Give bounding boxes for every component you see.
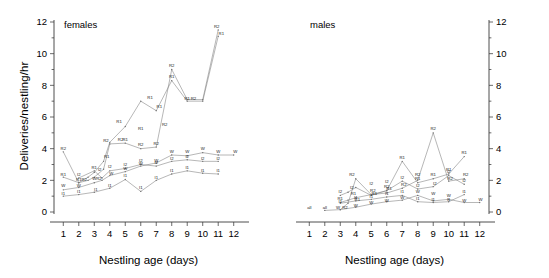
data-point (218, 161, 219, 162)
data-point (233, 154, 234, 155)
data-point (94, 172, 95, 173)
panel-title-males: males (310, 19, 336, 30)
point-label: R2 (61, 146, 67, 151)
point-label: I1 (139, 185, 143, 190)
x-tick-label: 3 (92, 228, 97, 239)
data-point (218, 173, 219, 174)
series-line-W (63, 153, 233, 190)
data-point (171, 80, 172, 81)
point-label: R2 (342, 205, 348, 210)
panel-females: 024681012123456789101112femalesNestling … (36, 16, 249, 266)
point-label: I2 (462, 178, 466, 183)
y-tick-label: 8 (496, 80, 501, 91)
point-label: I1 (462, 189, 466, 194)
point-label: W (109, 171, 114, 176)
data-point (433, 186, 434, 187)
point-label: I1 (77, 189, 81, 194)
point-label: I2 (338, 189, 342, 194)
point-label: I1 (154, 175, 158, 180)
point-label: R1 (219, 31, 225, 36)
data-point (218, 36, 219, 37)
point-label: W (462, 198, 467, 203)
data-point (94, 170, 95, 171)
y-tick-label: 2 (496, 175, 501, 186)
point-label: I2 (154, 160, 158, 165)
data-point (355, 187, 356, 188)
x-tick-label: 1 (61, 228, 66, 239)
x-tick-label: 10 (197, 228, 208, 239)
panel-title-females: females (64, 19, 98, 30)
data-point (63, 195, 64, 196)
point-label: I2 (170, 156, 174, 161)
point-label: R1 (116, 119, 122, 124)
point-label: I2 (201, 156, 205, 161)
point-label: I1 (447, 197, 451, 202)
point-label: W (170, 149, 175, 154)
point-label: R2 (138, 142, 144, 147)
point-label: R2 (103, 138, 109, 143)
x-tick-label: 8 (169, 228, 174, 239)
point-label: I1 (416, 196, 420, 201)
point-label: I1 (108, 183, 112, 188)
data-point (109, 188, 110, 189)
data-point (140, 191, 141, 192)
y-tick-label: 10 (36, 48, 47, 59)
point-label: W (431, 191, 436, 196)
point-label: I2 (369, 181, 373, 186)
point-label: I1 (369, 194, 373, 199)
point-label: I1 (400, 189, 404, 194)
point-label: all (323, 205, 327, 210)
point-label: I2 (98, 167, 102, 172)
data-point (402, 161, 403, 162)
x-tick-label: 11 (459, 228, 469, 239)
point-label: I2 (400, 175, 404, 180)
point-label: R1 (430, 172, 436, 177)
data-point (78, 194, 79, 195)
data-point (479, 202, 480, 203)
data-point (109, 142, 110, 143)
data-point (94, 182, 95, 183)
x-tick-label: 6 (384, 228, 389, 239)
data-point (187, 100, 188, 101)
point-label: W (61, 183, 66, 188)
point-label: R2 (401, 182, 407, 187)
x-tick-label: 8 (415, 228, 420, 239)
x-tick-label: 9 (185, 228, 190, 239)
y-tick-label: 8 (42, 80, 47, 91)
point-label: R2 (96, 176, 102, 181)
point-label: R1 (138, 126, 144, 131)
y-tick-label: 6 (496, 111, 501, 122)
data-point (202, 152, 203, 153)
point-label: R2 (169, 63, 175, 68)
point-label: R2 (463, 172, 469, 177)
point-label: R1 (104, 154, 110, 159)
data-point (140, 148, 141, 149)
x-tick-label: 5 (123, 228, 128, 239)
data-point (202, 173, 203, 174)
point-label: I1 (431, 197, 435, 202)
x-tick-label: 12 (228, 228, 239, 239)
data-point (464, 194, 465, 195)
data-point (63, 151, 64, 152)
point-label: all (307, 205, 311, 210)
data-point (156, 180, 157, 181)
data-point (109, 143, 110, 144)
x-tick-label: 2 (76, 228, 81, 239)
point-label: R2 (162, 122, 168, 127)
point-label: R2 (430, 126, 436, 131)
point-label: I1 (170, 168, 174, 173)
point-label: R2 (349, 172, 355, 177)
data-point (202, 161, 203, 162)
data-point (433, 178, 434, 179)
point-label: I2 (350, 185, 354, 190)
point-label: R1 (157, 104, 163, 109)
y-tick-label: 12 (496, 16, 507, 27)
x-tick-label: 12 (474, 228, 485, 239)
point-label: R1 (123, 137, 129, 142)
point-label: I2 (385, 179, 389, 184)
data-point (171, 161, 172, 162)
point-label: I1 (201, 168, 205, 173)
figure-root: Deliveries/nestling/hr 02468101212345678… (0, 0, 549, 278)
data-point (464, 156, 465, 157)
data-point (103, 169, 104, 170)
